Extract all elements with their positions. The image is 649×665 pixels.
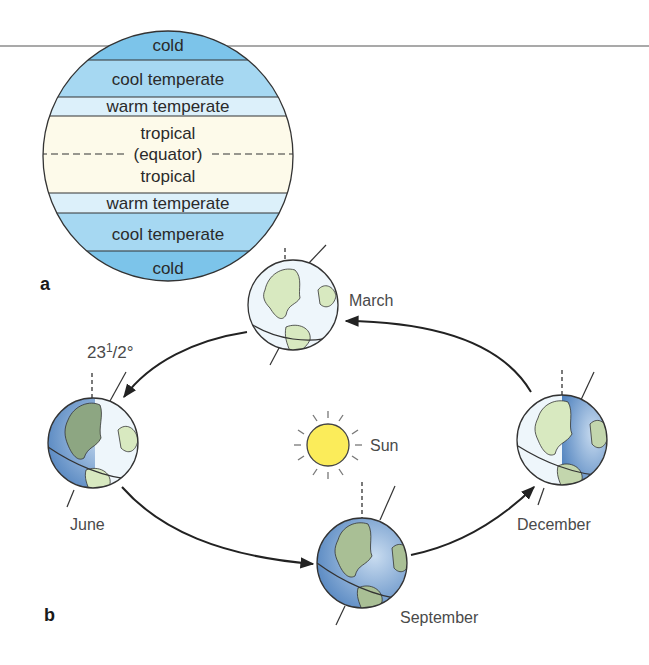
month-label-june: June <box>70 516 105 533</box>
month-label-march: March <box>349 292 393 309</box>
globe-september <box>317 482 413 625</box>
globe-december <box>517 370 614 505</box>
globe-june <box>48 372 145 507</box>
month-label-september: September <box>400 609 479 626</box>
label-tropical-north: tropical <box>141 124 196 143</box>
label-equator: (equator) <box>134 145 203 164</box>
panel-a-label: a <box>40 274 51 294</box>
globe-march <box>246 245 342 365</box>
label-tropical-south: tropical <box>141 167 196 186</box>
label-cold-south: cold <box>152 259 183 278</box>
label-warm-temperate-north: warm temperate <box>106 97 230 116</box>
orbit-arrow-mar-to-jun <box>124 332 247 397</box>
tilt-angle-label: 231/2° <box>87 341 134 362</box>
panel-b-label: b <box>44 605 55 625</box>
label-cool-temperate-south: cool temperate <box>112 225 224 244</box>
label-cold-north: cold <box>152 36 183 55</box>
climate-zones-globe: cold cool temperate warm temperate tropi… <box>40 27 300 291</box>
label-warm-temperate-south: warm temperate <box>106 194 230 213</box>
label-cool-temperate-north: cool temperate <box>112 70 224 89</box>
sun-icon <box>294 411 362 479</box>
month-label-december: December <box>517 516 591 533</box>
seasons-diagram: cold cool temperate warm temperate tropi… <box>0 0 649 665</box>
orbit-arrow-dec-to-mar <box>346 321 531 392</box>
orbit-arrow-jun-to-sep <box>122 487 313 564</box>
orbit-arrow-sep-to-dec <box>411 487 534 555</box>
sun-label: Sun <box>370 437 398 454</box>
